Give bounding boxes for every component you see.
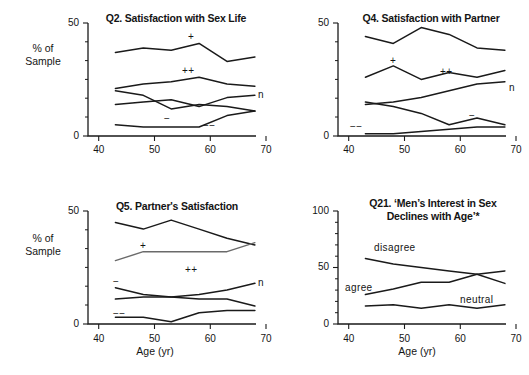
series-q4-plusplus [365, 66, 505, 80]
panel-q5-ytick-0: 0 [55, 318, 79, 329]
panel-q4-xtick-60: 60 [449, 144, 471, 155]
series-q2-minusminus [115, 111, 255, 127]
series-q5-plusplus [115, 243, 255, 261]
series-q21-disagree [365, 258, 505, 283]
panel-q2-xtick-50: 50 [144, 144, 166, 155]
panel-q21-plot [264, 188, 529, 375]
panel-q2: Q2. Satisfaction with Sex Life [0, 0, 264, 188]
panel-q4-xtick-40: 40 [338, 144, 360, 155]
panel-q5-plot [0, 188, 264, 375]
series-q4-plus [365, 28, 505, 51]
panel-q2-annotation-plusplus: ++ [182, 65, 194, 76]
panel-q2-xtick-40: 40 [88, 144, 110, 155]
panel-q4-ytick-50: 50 [305, 17, 329, 28]
panel-q5-annotation-plus: + [140, 240, 146, 251]
panel-q5-ytick-50: 50 [55, 205, 79, 216]
panel-q5: Q5. Partner's Satisfaction 50 0 40 50 60… [0, 188, 264, 375]
axis-lines [88, 23, 256, 136]
panel-q21-xtick-40: 40 [338, 333, 360, 344]
panel-q5-annotation-plusplus: ++ [185, 264, 197, 275]
series-q4-minusminus [365, 127, 505, 134]
panel-q2-annotation-minusminus: −− [203, 120, 215, 131]
panel-q4-ytick-0: 0 [305, 130, 329, 141]
series-q4-minus [365, 102, 505, 125]
panel-q2-plot [0, 0, 264, 188]
series-q2-plus [115, 43, 255, 61]
series-q21-neutral [365, 305, 505, 308]
panel-q21-label-disagree: disagree [374, 242, 416, 253]
series-q5-n [115, 283, 255, 299]
panel-q4-annotation-minus: − [469, 110, 475, 121]
series-q2-plusplus [115, 77, 255, 88]
panel-q5-annotation-minus: − [113, 276, 119, 287]
panel-q5-xtick-60: 60 [199, 333, 221, 344]
panel-q4-annotation-plus: + [390, 55, 396, 66]
panel-q5-xtick-50: 50 [144, 333, 166, 344]
panel-q21-xtick-60: 60 [449, 333, 471, 344]
panel-q21-ytick-100: 100 [301, 205, 329, 216]
panel-q4-plot [264, 0, 529, 188]
series-q2-minus [115, 91, 255, 111]
figure-container: % of Sample % of Sample Age (yr) Age (yr… [0, 0, 529, 375]
panel-q21-xtick-70: 70 [505, 333, 527, 344]
panel-q4-annotation-n: n [509, 82, 515, 93]
panel-q21-label-neutral: neutral [460, 294, 493, 305]
panel-q21: Q21. ‘Men’s Interest in Sex Declines wit… [264, 188, 529, 375]
panel-q21-ytick-50: 50 [305, 261, 329, 272]
panel-q21-ytick-0: 0 [305, 318, 329, 329]
series-q2-n [115, 95, 255, 106]
series-q21-agree [365, 271, 505, 295]
panel-q4-xtick-70: 70 [505, 144, 527, 155]
series-q4-n [365, 82, 505, 105]
panel-q4-xtick-50: 50 [394, 144, 416, 155]
panel-q4-annotation-minusminus: −− [350, 121, 362, 132]
series-q5-minusminus [115, 310, 255, 321]
panel-q2-ytick-50: 50 [55, 17, 79, 28]
series-q5-plus [115, 220, 255, 245]
panel-q2-ytick-0: 0 [55, 130, 79, 141]
panel-q2-annotation-plus: + [188, 31, 194, 42]
panel-q4: Q4. Satisfaction with Partner 50 0 40 50… [264, 0, 529, 188]
panel-q5-xtick-40: 40 [88, 333, 110, 344]
panel-q4-annotation-plusplus: ++ [440, 66, 452, 77]
panel-q2-annotation-minus: − [164, 113, 170, 124]
panel-q21-xtick-50: 50 [394, 333, 416, 344]
panel-q5-annotation-minusminus: −− [113, 308, 125, 319]
panel-q21-label-agree: agree [345, 282, 373, 293]
panel-q2-xtick-60: 60 [199, 144, 221, 155]
